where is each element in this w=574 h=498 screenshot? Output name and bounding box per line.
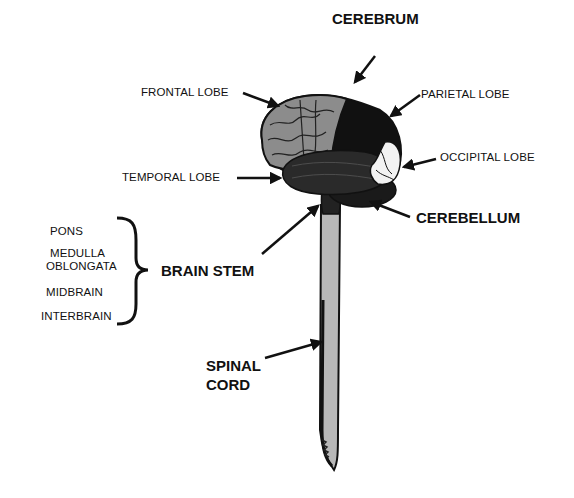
cerebellum-arrow	[371, 202, 410, 217]
frontal-lobe-arrow	[243, 93, 278, 106]
label-medulla-line2: OBLONGATA	[46, 260, 117, 273]
spinal-cord-arrow	[265, 342, 321, 358]
spinal-cord	[320, 205, 340, 470]
cerebrum-arrow	[355, 56, 375, 82]
parietal-lobe-arrow	[391, 95, 420, 116]
label-parietal-lobe: PARIETAL LOBE	[421, 88, 510, 100]
label-medulla-line1: MEDULLA	[46, 247, 117, 260]
brain-stem-brace	[117, 218, 148, 324]
label-spinal-cord: SPINAL CORD	[206, 356, 261, 394]
label-frontal-lobe: FRONTAL LOBE	[141, 86, 228, 98]
label-cerebellum: CEREBELLUM	[416, 209, 520, 226]
label-spinal-cord-line1: SPINAL	[206, 356, 261, 375]
label-occipital-lobe: OCCIPITAL LOBE	[440, 151, 535, 163]
brain-stem-arrow	[262, 206, 318, 254]
label-cerebrum: CEREBRUM	[332, 10, 419, 27]
label-medulla-oblongata: MEDULLA OBLONGATA	[46, 247, 117, 273]
label-spinal-cord-line2: CORD	[206, 375, 261, 394]
label-pons: PONS	[50, 225, 83, 237]
label-brain-stem: BRAIN STEM	[161, 262, 254, 279]
label-interbrain: INTERBRAIN	[41, 310, 112, 322]
label-midbrain: MIDBRAIN	[46, 286, 103, 298]
label-temporal-lobe: TEMPORAL LOBE	[122, 171, 220, 183]
occipital-lobe-arrow	[404, 159, 436, 167]
